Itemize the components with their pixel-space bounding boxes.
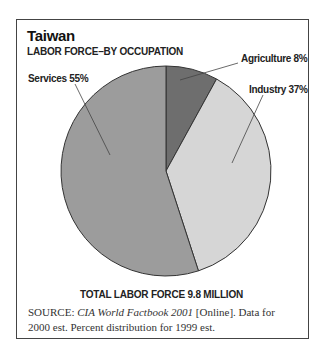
label-agriculture: Agriculture 8%	[241, 53, 308, 64]
total-labor-force: TOTAL LABOR FORCE 9.8 MILLION	[0, 289, 323, 300]
source-label: SOURCE:	[28, 306, 74, 318]
source-title: CIA World Factbook 2001	[77, 306, 193, 318]
label-industry: Industry 37%	[249, 84, 308, 95]
label-services: Services 55%	[28, 73, 89, 84]
pie-chart: Agriculture 8% Industry 37% Services 55%	[0, 0, 323, 353]
source-note: SOURCE: CIA World Factbook 2001 [Online]…	[28, 305, 298, 335]
